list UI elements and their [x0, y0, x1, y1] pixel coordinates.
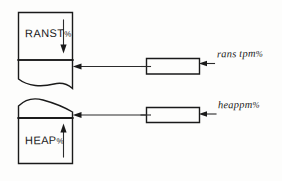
ranst-connector-label-text: rans tpm [217, 48, 256, 60]
heap-connector-label: heappm% [218, 99, 260, 111]
heap-label-suffix: % [57, 137, 64, 146]
heap-connector-label-text: heappm [218, 99, 253, 111]
ranst-label: RANST% [25, 27, 72, 40]
ranst-connector-label-suffix: % [256, 49, 263, 59]
heap-label: HEAP% [25, 134, 64, 146]
heap-node-rect [147, 108, 200, 123]
ranst-connector-line [73, 64, 151, 70]
heap-upper-region [19, 99, 73, 118]
ranst-label-suffix: % [64, 30, 71, 39]
ranst-label-line [199, 61, 215, 66]
heap-label-line [199, 111, 216, 116]
heap-connector-line [73, 112, 151, 118]
ranst-lower-region [19, 60, 73, 89]
heap-label-text: HEAP [25, 134, 57, 146]
ranst-label-text: RANST [25, 27, 64, 39]
ranst-connector-label: rans tpm% [217, 48, 263, 60]
ranst-node-rect [147, 59, 200, 75]
heap-connector-label-suffix: % [252, 100, 259, 110]
diagram-canvas: RANST% HEAP% rans tpm% heappm% [0, 0, 282, 181]
